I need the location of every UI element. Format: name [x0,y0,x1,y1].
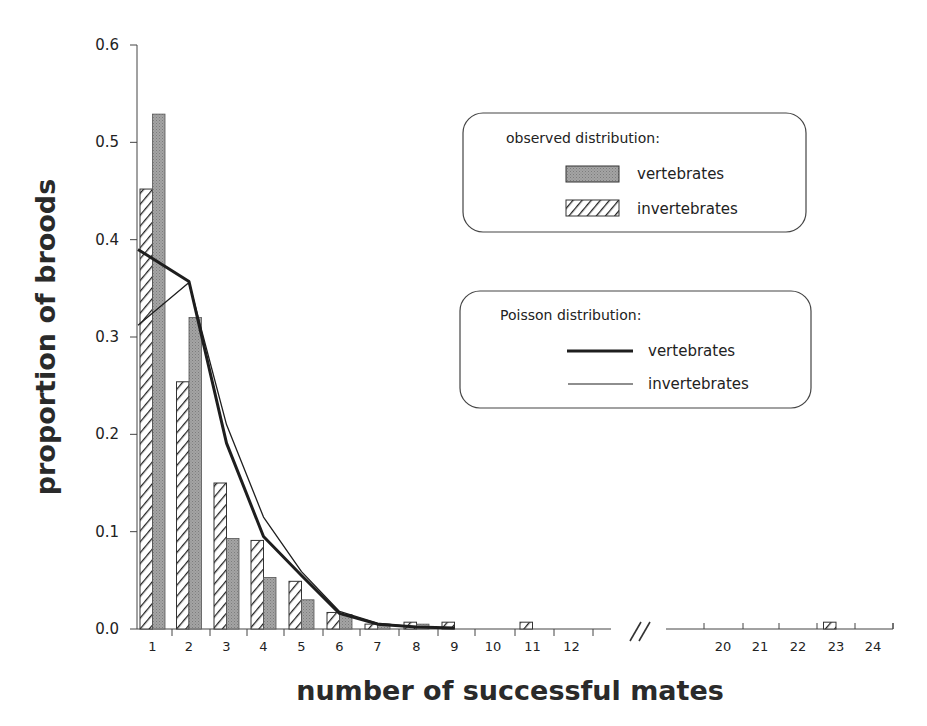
bar-vertebrates [302,600,315,629]
legend-swatch-invertebrates-bar [566,200,619,216]
x-tick-label: 6 [335,639,343,654]
legend-poisson-title: Poisson distribution: [500,307,641,323]
x-tick-label: 8 [412,639,420,654]
x-axis-title: number of successful mates [296,675,724,706]
bar-vertebrates [189,318,202,629]
x-tick-label: 10 [485,639,502,654]
legend-label-poisson-vertebrates: vertebrates [648,342,735,360]
bar-invertebrates [327,612,340,629]
bar-invertebrates [520,622,533,629]
y-tick-label: 0.0 [95,620,119,638]
legend-poisson: Poisson distribution: vertebrates invert… [460,291,811,408]
y-tick-label: 0.1 [95,523,119,541]
x-axis: 1234567891011122021222324 [137,622,893,654]
x-tick-label: 5 [297,639,305,654]
x-tick-label: 22 [790,639,807,654]
y-tick-label: 0.5 [95,133,119,151]
bar-vertebrates [227,538,240,629]
legend-observed: observed distribution: vertebrates inver… [463,113,806,232]
bar-invertebrates [214,483,227,629]
legend-label-poisson-invertebrates: invertebrates [648,375,749,393]
y-tick-label: 0.2 [95,425,119,443]
x-tick-label: 3 [222,639,230,654]
y-tick-label: 0.6 [95,36,119,54]
bar-invertebrates [177,382,190,629]
chart: proportion of broods number of successfu… [0,0,927,726]
x-tick-label: 7 [373,639,381,654]
x-tick-label: 21 [752,639,769,654]
x-tick-label: 23 [828,639,845,654]
x-tick-label: 9 [450,639,458,654]
bar-vertebrates [153,114,166,629]
axis-break-mark [630,622,650,641]
legend-label-observed-vertebrates: vertebrates [637,165,724,183]
x-tick-label: 20 [715,639,732,654]
x-tick-label: 4 [259,639,267,654]
bar-vertebrates [264,577,277,629]
y-axis: 0.00.10.20.30.40.50.6 [95,36,137,638]
legend-observed-title: observed distribution: [506,130,660,146]
x-tick-label: 11 [524,639,541,654]
legend-swatch-vertebrates-bar [566,166,619,182]
x-tick-label: 12 [563,639,580,654]
bar-invertebrates [289,581,302,629]
x-tick-label: 2 [185,639,193,654]
legend-label-observed-invertebrates: invertebrates [637,200,738,218]
bar-invertebrates [824,622,837,629]
x-tick-label: 24 [865,639,882,654]
y-tick-label: 0.4 [95,231,119,249]
y-tick-label: 0.3 [95,328,119,346]
y-axis-title: proportion of broods [30,179,61,496]
x-tick-label: 1 [148,639,156,654]
bar-invertebrates [251,540,264,629]
